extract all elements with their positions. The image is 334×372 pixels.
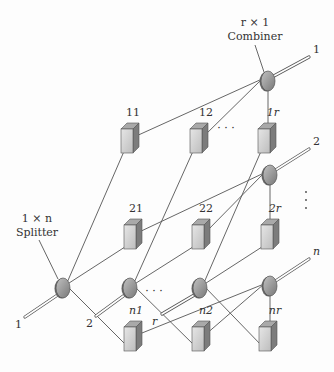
input-label-r: r (152, 315, 158, 328)
splitter-node-2 (122, 278, 138, 299)
combiner-node-2 (262, 165, 278, 186)
element-label-n2: n2 (199, 304, 213, 317)
switch-element-22 (192, 219, 210, 249)
input-label-2: 2 (86, 317, 93, 330)
element-label-nr: nr (269, 304, 282, 317)
element-label-2r: 2r (268, 202, 282, 215)
splitter-to-element-line (203, 245, 265, 285)
splitter-node-r (192, 278, 208, 299)
combiner-leader-line (255, 45, 264, 72)
connection-lines (39, 45, 270, 347)
splitter-node-1 (55, 278, 71, 299)
ellipsis: · · · (145, 285, 162, 298)
splitter-dim-label: 1 × n (22, 212, 52, 225)
switch-element-21 (124, 219, 142, 249)
element-to-combiner-line (205, 284, 264, 335)
switch-element-1r (258, 123, 276, 153)
combiner-node-1 (260, 71, 276, 92)
vertical-ellipsis-dot (305, 191, 307, 193)
output-fiber-core (274, 149, 309, 171)
splitter-to-element-line (203, 149, 262, 285)
element-label-1r: 1r (267, 106, 280, 119)
input-fiber-core (96, 294, 126, 316)
element-label-11: 11 (126, 106, 140, 119)
combiner-dim-label: r × 1 (241, 16, 269, 29)
output-label-2: 2 (313, 135, 320, 148)
combiner-node-n (262, 276, 278, 297)
combiner-name-label: Combiner (228, 30, 284, 43)
switch-element-n2 (192, 321, 210, 351)
switch-element-2r (261, 219, 279, 249)
output-label-n: n (313, 245, 320, 258)
element-label-12: 12 (199, 106, 213, 119)
vertical-ellipsis-dot (305, 207, 307, 209)
input-fiber-core (162, 294, 196, 314)
output-label-1: 1 (313, 43, 320, 56)
splitter-to-element-line (133, 149, 194, 285)
switch-element-nr (259, 321, 277, 351)
switch-element-n1 (124, 321, 142, 351)
switch-element-12 (190, 123, 208, 153)
element-label-n1: n1 (129, 304, 143, 317)
input-label-1: 1 (15, 318, 22, 331)
splitter-to-element-line (66, 149, 125, 285)
splitter-to-element-line (66, 245, 128, 285)
element-label-21: 21 (129, 202, 143, 215)
output-fiber-core (274, 259, 309, 282)
splitter-leader-line (39, 240, 58, 279)
ellipsis: · · · (217, 122, 234, 135)
element-label-22: 22 (199, 202, 213, 215)
splitter-name-label: Splitter (16, 226, 59, 239)
output-fiber-core (272, 57, 309, 77)
optical-network-diagram: r × 1 Combiner 1 × n Splitter 11121r2122… (0, 0, 334, 372)
input-fiber-core (25, 294, 59, 317)
element-to-combiner-line (205, 173, 264, 233)
switch-element-11 (121, 123, 139, 153)
vertical-ellipsis-dot (305, 199, 307, 201)
diagram-svg: r × 1 Combiner 1 × n Splitter 11121r2122… (0, 0, 334, 372)
